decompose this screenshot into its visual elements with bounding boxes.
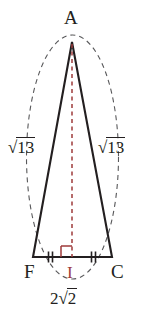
radical-group: √13 — [98, 139, 125, 156]
vertex-label-f: F — [24, 262, 35, 281]
radicand-value: 2 — [67, 288, 78, 308]
radicand-value: 13 — [16, 137, 35, 157]
radical-group: √2 — [59, 290, 78, 307]
left-leg-length-label: √13 — [8, 139, 35, 156]
radical-group: √13 — [8, 139, 35, 156]
vertex-label-c: C — [111, 262, 124, 281]
vertex-label-i: I — [67, 264, 73, 281]
right-leg-length-label: √13 — [98, 139, 125, 156]
radicand-value: 13 — [106, 137, 125, 157]
vertex-label-a: A — [64, 8, 78, 27]
base-length-label: 2√2 — [50, 290, 77, 307]
base-coefficient: 2 — [50, 289, 59, 308]
